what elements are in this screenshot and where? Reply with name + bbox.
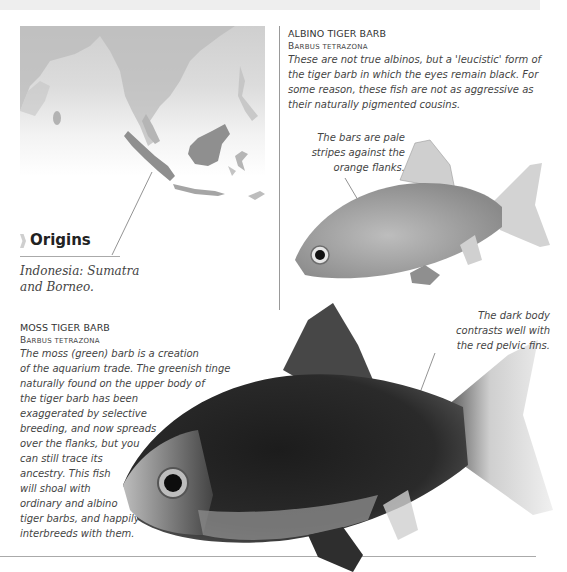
latin-rest: TETRAZONA	[55, 337, 100, 345]
origins-heading-box: Origins	[20, 226, 120, 257]
albino-tiger-barb-image	[290, 135, 560, 305]
callout-line: The dark body	[405, 308, 550, 323]
albino-title: ALBINO TIGER BARB	[288, 28, 558, 39]
origins-line: Indonesia: Sumatra	[20, 263, 160, 279]
chevron-right-icon	[20, 234, 26, 248]
origins-line: and Borneo.	[20, 279, 160, 295]
latin-rest: ARBUS	[294, 43, 320, 51]
column-divider	[279, 26, 280, 310]
albino-description: These are not true albinos, but a 'leuci…	[288, 52, 558, 112]
callout-line: the red pelvic fins.	[405, 338, 550, 353]
latin-rest: TETRAZONA	[323, 43, 368, 51]
albino-latin-name: BARBUS TETRAZONA	[288, 41, 558, 51]
origins-heading: Origins	[30, 231, 91, 249]
callout-line: contrasts well with	[405, 323, 550, 338]
origins-text: Indonesia: Sumatra and Borneo.	[20, 263, 160, 295]
latin-rest: ARBUS	[26, 337, 52, 345]
moss-callout: The dark body contrasts well with the re…	[405, 308, 550, 353]
albino-section: ALBINO TIGER BARB BARBUS TETRAZONA These…	[288, 28, 558, 112]
